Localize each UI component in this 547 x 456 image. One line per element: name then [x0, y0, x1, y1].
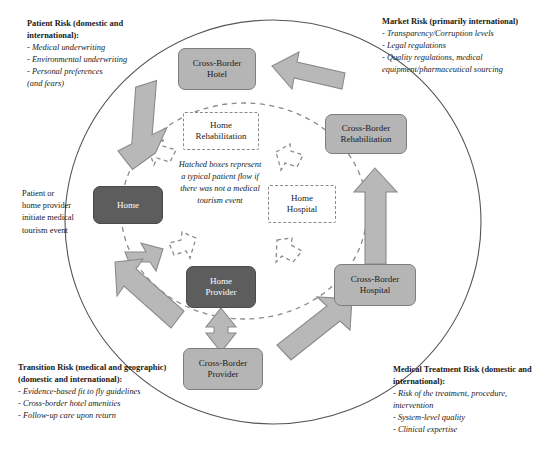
- patient-risk-item-1: - Environmental underwriting: [27, 54, 177, 66]
- node-cross-border-rehabilitation[interactable]: Cross-Border Rehabilitation: [325, 114, 407, 154]
- node-cross-border-hotel-label: Cross-Border Hotel: [193, 58, 242, 79]
- transition-risk-item-0: - Evidence-based fit to fly guidelines: [18, 386, 178, 398]
- node-cross-border-hospital[interactable]: Cross-Border Hospital: [334, 264, 416, 306]
- hatched-arrow-hospital-to-provider: [276, 238, 302, 262]
- side-label-initiation: Patient or home provider initiate medica…: [22, 188, 74, 237]
- legend-hatched-boxes-note: Hatched boxes represent a typical patien…: [178, 159, 262, 207]
- transition-risk-item-1: - Cross-border hotel amenities: [18, 398, 178, 410]
- node-cross-border-rehabilitation-line2: Rehabilitation: [341, 134, 392, 144]
- corner-block-medical-treatment-risk: Medical Treatment Risk (domestic and int…: [393, 364, 545, 436]
- node-home-rehabilitation-line1: Home: [210, 120, 232, 130]
- diagram-canvas: Patient Risk (domestic and international…: [0, 0, 547, 456]
- node-home-provider[interactable]: Home Provider: [186, 266, 256, 308]
- node-cross-border-provider-line1: Cross-Border: [199, 358, 248, 368]
- arrow-home-provider-cross-border-provider: [206, 308, 236, 352]
- arrow-hospital-to-rehab: [354, 168, 397, 264]
- transition-risk-title: Transition Risk (medical and geographic)…: [18, 362, 178, 386]
- node-cross-border-provider-line2: Provider: [208, 369, 239, 379]
- arrow-rehab-to-hotel: [272, 52, 345, 89]
- node-cross-border-provider[interactable]: Cross-Border Provider: [183, 348, 263, 390]
- corner-block-market-risk: Market Risk (primarily international) - …: [382, 16, 544, 76]
- arrow-provider-to-hospital: [277, 297, 352, 360]
- node-home-hospital[interactable]: Home Hospital: [268, 185, 336, 223]
- node-cross-border-hotel[interactable]: Cross-Border Hotel: [178, 48, 256, 90]
- medical-risk-item-0: - Risk of the treatment, procedure,: [393, 388, 545, 400]
- market-risk-item-3: equipment/pharmaceutical sourcing: [382, 64, 544, 76]
- patient-risk-item-2: - Personal preferences: [27, 66, 177, 78]
- transition-risk-item-2: - Follow-up care upon return: [18, 410, 178, 422]
- node-cross-border-hotel-line2: Hotel: [207, 69, 227, 79]
- node-cross-border-hospital-line2: Hospital: [360, 285, 391, 295]
- node-home-hospital-line2: Hospital: [287, 204, 318, 214]
- node-cross-border-hospital-line1: Cross-Border: [351, 274, 400, 284]
- medical-risk-item-2: - System-level quality: [393, 412, 545, 424]
- node-home-hospital-label: Home Hospital: [287, 193, 318, 214]
- node-home-hospital-line1: Home: [291, 193, 313, 203]
- node-home-rehabilitation[interactable]: Home Rehabilitation: [183, 112, 259, 150]
- market-risk-item-2: - Quality regulations, medical: [382, 52, 544, 64]
- node-cross-border-hospital-label: Cross-Border Hospital: [351, 274, 400, 295]
- corner-block-patient-risk: Patient Risk (domestic and international…: [27, 18, 177, 90]
- market-risk-item-0: - Transparency/Corruption levels: [382, 28, 544, 40]
- arrow-home-to-hotel: [115, 76, 176, 175]
- arrow-home-to-cross-border-provider: [115, 259, 184, 328]
- node-cross-border-rehabilitation-label: Cross-Border Rehabilitation: [341, 123, 392, 144]
- medical-risk-item-1: intervention: [393, 400, 545, 412]
- patient-risk-item-3: (and fears): [27, 78, 177, 90]
- medical-risk-title: Medical Treatment Risk (domestic and int…: [393, 364, 545, 388]
- node-home-provider-line2: Provider: [206, 287, 237, 297]
- node-home-provider-line1: Home: [210, 276, 232, 286]
- node-home-rehabilitation-line2: Rehabilitation: [196, 131, 247, 141]
- patient-risk-item-0: - Medical underwriting: [27, 42, 177, 54]
- corner-block-transition-risk: Transition Risk (medical and geographic)…: [18, 362, 178, 422]
- hatched-arrow-provider-to-home: [169, 232, 196, 258]
- node-home[interactable]: Home: [93, 186, 163, 224]
- node-home-label: Home: [117, 200, 139, 211]
- node-cross-border-rehabilitation-line1: Cross-Border: [342, 123, 391, 133]
- node-home-provider-label: Home Provider: [206, 276, 237, 297]
- market-risk-item-1: - Legal regulations: [382, 40, 544, 52]
- node-cross-border-hotel-line1: Cross-Border: [193, 58, 242, 68]
- node-cross-border-provider-label: Cross-Border Provider: [199, 358, 248, 379]
- market-risk-title: Market Risk (primarily international): [382, 16, 544, 28]
- medical-risk-item-3: - Clinical expertise: [393, 424, 545, 436]
- patient-risk-title: Patient Risk (domestic and international…: [27, 18, 177, 42]
- hatched-arrow-rehab-to-hospital: [276, 144, 303, 170]
- node-home-rehabilitation-label: Home Rehabilitation: [196, 120, 247, 141]
